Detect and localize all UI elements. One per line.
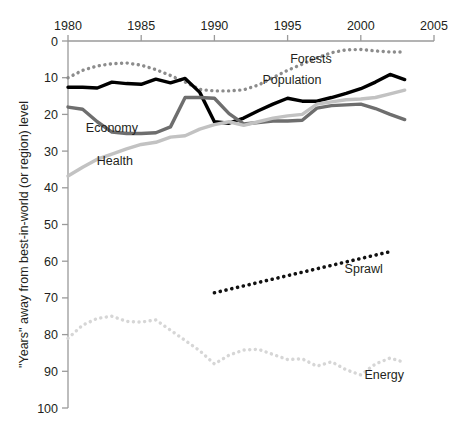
y-axis-tick-label: 70 bbox=[44, 291, 58, 305]
y-axis-tick-label: 100 bbox=[37, 402, 58, 416]
x-axis-tick-label: 1985 bbox=[127, 19, 155, 33]
series-label-economy: Economy bbox=[86, 121, 139, 135]
y-axis-tick-label: 80 bbox=[44, 328, 58, 342]
chart-container: 1980198519901995200020050102030405060708… bbox=[0, 0, 464, 423]
y-axis-tick-label: 0 bbox=[51, 35, 58, 49]
y-axis-tick-label: 60 bbox=[44, 255, 58, 269]
series-line-forests bbox=[68, 49, 405, 90]
series-label-population: Population bbox=[262, 73, 321, 87]
series-line-energy bbox=[68, 316, 405, 375]
y-axis-tick-label: 90 bbox=[44, 365, 58, 379]
x-axis-tick-label: 1990 bbox=[200, 19, 228, 33]
y-axis-tick-label: 10 bbox=[44, 71, 58, 85]
series-label-sprawl: Sprawl bbox=[345, 262, 383, 276]
y-axis-tick-label: 20 bbox=[44, 108, 58, 122]
y-axis-tick-label: 40 bbox=[44, 181, 58, 195]
y-axis-tick-label: 50 bbox=[44, 218, 58, 232]
series-label-forests: Forests bbox=[290, 52, 332, 66]
series-label-health: Health bbox=[97, 154, 133, 168]
y-axis-tick-label: 30 bbox=[44, 145, 58, 159]
x-axis-tick-label: 2005 bbox=[420, 19, 448, 33]
series-label-energy: Energy bbox=[364, 368, 404, 382]
x-axis-tick-label: 1995 bbox=[274, 19, 302, 33]
x-axis-tick-label: 2000 bbox=[347, 19, 375, 33]
x-axis-tick-label: 1980 bbox=[54, 19, 82, 33]
line-chart: 1980198519901995200020050102030405060708… bbox=[0, 0, 464, 423]
y-axis-title: "Years" away from best-in-world (or regi… bbox=[17, 101, 31, 368]
